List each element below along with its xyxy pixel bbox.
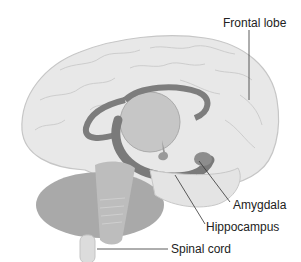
label-frontal-lobe: Frontal lobe — [223, 16, 286, 30]
label-spinal-cord: Spinal cord — [171, 242, 231, 256]
thalamus — [120, 92, 180, 152]
amygdala-shape — [194, 152, 212, 166]
spinal-cord-shape — [80, 235, 95, 262]
label-amygdala: Amygdala — [233, 198, 286, 212]
label-hippocampus: Hippocampus — [206, 220, 279, 234]
